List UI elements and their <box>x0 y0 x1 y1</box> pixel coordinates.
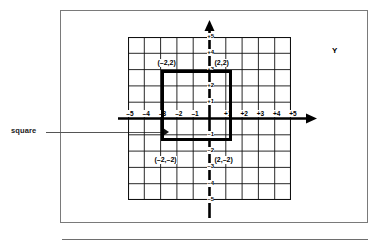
y-tick-label--2: –2 <box>207 147 214 154</box>
vertex-label-bottom-right: (2,–2) <box>214 156 233 164</box>
vertex-label-top-right: (2,2) <box>214 59 229 67</box>
y-tick-label-4: +4 <box>207 49 214 56</box>
figure-root: square <box>0 0 379 252</box>
x-tick-label-2: +2 <box>240 110 248 117</box>
y-axis-label: Y <box>332 46 337 55</box>
page-divider <box>62 239 368 240</box>
vertex-label-top-left: (–2,2) <box>157 59 176 67</box>
x-tick-label-5: +5 <box>289 110 297 117</box>
x-tick-label--5: –5 <box>126 110 134 117</box>
y-tick-label--5: –5 <box>207 196 214 203</box>
y-tick-label--3: –3 <box>207 163 214 170</box>
x-tick-label-4: +4 <box>273 110 281 117</box>
x-tick-label--4: –4 <box>142 110 150 117</box>
y-tick-label-5: +5 <box>207 33 214 40</box>
annotation-label-square: square <box>11 126 36 135</box>
coordinate-plane: X Y –5 –4 –3 –2 –1 +1 +2 +3 +4 +5 +5 +4 … <box>128 37 291 200</box>
vertex-label-bottom-left: (–2,–2) <box>154 156 177 164</box>
y-tick-label--4: –4 <box>207 180 214 187</box>
x-tick-label-3: +3 <box>256 110 264 117</box>
square-shape <box>161 70 232 141</box>
